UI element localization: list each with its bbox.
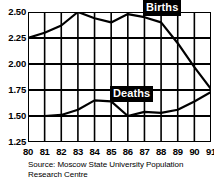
y-axis: 2.502.252.001.751.501.25	[0, 0, 26, 160]
x-tick-label-83: 83	[69, 146, 87, 157]
x-tick-label-88: 88	[152, 146, 170, 157]
y-tick-label-2.25: 2.25	[0, 33, 26, 42]
y-tick-label-2.00: 2.00	[0, 59, 26, 68]
deaths-series-label: Deaths	[110, 86, 153, 102]
y-tick-label-1.75: 1.75	[0, 85, 26, 94]
plot-svg	[28, 12, 211, 142]
x-axis: 808182838485868788899091	[28, 146, 211, 159]
x-tick-label-91: 91	[202, 146, 214, 157]
x-tick-label-84: 84	[86, 146, 104, 157]
x-tick-label-87: 87	[135, 146, 153, 157]
y-tick-label-1.50: 1.50	[0, 111, 26, 120]
x-tick-label-86: 86	[119, 146, 137, 157]
births-series-label: Births	[143, 0, 181, 16]
x-tick-label-85: 85	[102, 146, 120, 157]
x-tick-label-90: 90	[185, 146, 203, 157]
plot-area	[28, 12, 211, 142]
y-tick-label-1.25: 1.25	[0, 137, 26, 146]
x-tick-label-81: 81	[36, 146, 54, 157]
plot-background	[28, 12, 211, 142]
source-caption: Source: Moscow State University Populati…	[28, 160, 214, 180]
chart-figure: 2.502.252.001.751.501.25 808182838485868…	[0, 0, 214, 188]
y-tick-label-2.50: 2.50	[0, 7, 26, 16]
x-tick-label-89: 89	[169, 146, 187, 157]
x-tick-label-82: 82	[52, 146, 70, 157]
x-tick-label-80: 80	[19, 146, 37, 157]
